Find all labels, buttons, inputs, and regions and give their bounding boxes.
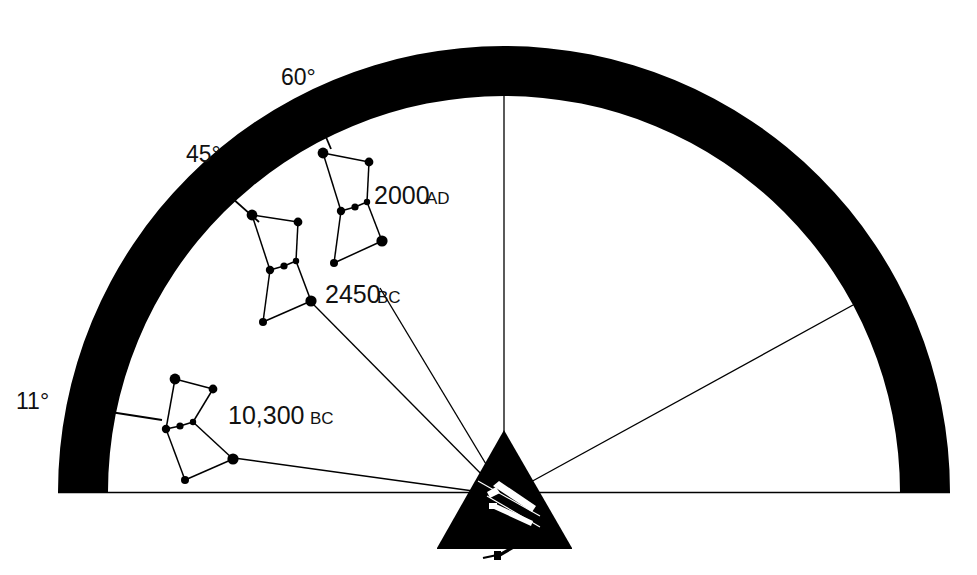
star-betelgeuse bbox=[318, 148, 329, 159]
constellation-stars bbox=[247, 210, 317, 326]
star-rigel bbox=[305, 295, 316, 306]
angle-label-11: 11° bbox=[16, 388, 49, 414]
sightline-2450bc bbox=[313, 304, 498, 491]
link-saiph-rigel bbox=[185, 459, 233, 480]
star-saiph bbox=[259, 318, 267, 326]
link-bellatrix-mintaka bbox=[296, 222, 298, 261]
epoch-era-ad: AD bbox=[426, 189, 450, 208]
sight-lines-group bbox=[234, 288, 501, 494]
star-saiph bbox=[181, 476, 189, 484]
star-mintaka bbox=[293, 258, 299, 264]
angle-label-60: 60° bbox=[281, 64, 316, 90]
right-radial-line bbox=[518, 288, 884, 489]
link-betelgeuse-alnitak bbox=[166, 379, 175, 429]
link-saiph-rigel bbox=[334, 241, 382, 263]
star-alnitak bbox=[266, 266, 274, 274]
star-saiph bbox=[330, 259, 338, 267]
link-betelgeuse-bellatrix bbox=[323, 153, 369, 162]
epoch-era-bc: BC bbox=[310, 409, 334, 428]
epoch-number-2000: 2000 bbox=[374, 181, 430, 209]
link-bellatrix-mintaka bbox=[193, 389, 213, 422]
star-alnitak bbox=[337, 207, 345, 215]
constellation-orion-2450bc bbox=[247, 210, 317, 326]
star-betelgeuse bbox=[247, 210, 258, 221]
star-alnitak bbox=[162, 425, 170, 433]
diagram-canvas: 60° 45° 11° bbox=[0, 0, 977, 575]
epoch-label-10300bc: 10,300 BC bbox=[228, 401, 334, 429]
link-mintaka-rigel bbox=[193, 422, 233, 459]
epoch-label-2450bc: 2450 BC bbox=[325, 280, 401, 308]
star-bellatrix bbox=[294, 218, 303, 227]
star-rigel bbox=[227, 453, 238, 464]
star-mintaka bbox=[364, 199, 370, 205]
subterranean-chamber-marker bbox=[494, 551, 501, 560]
star-bellatrix bbox=[365, 158, 374, 167]
link-mintaka-rigel bbox=[296, 261, 311, 301]
star-mintaka bbox=[190, 419, 196, 425]
epoch-number-2450: 2450 bbox=[325, 280, 381, 308]
angle-label-45: 45° bbox=[186, 141, 221, 167]
link-betelgeuse-alnitak bbox=[323, 153, 341, 211]
orion-precession-figure: 60° 45° 11° bbox=[0, 0, 977, 575]
star-bellatrix bbox=[209, 385, 218, 394]
star-alnilam bbox=[176, 422, 183, 429]
link-alnitak-saiph bbox=[263, 270, 270, 322]
epoch-label-2000ad: 2000 AD bbox=[374, 181, 450, 209]
sightline-10300bc bbox=[234, 458, 495, 494]
star-rigel bbox=[376, 235, 387, 246]
link-saiph-rigel bbox=[263, 301, 311, 322]
link-betelgeuse-bellatrix bbox=[175, 379, 213, 389]
epoch-labels-group: 2000 AD 2450 BC 10,300 BC bbox=[228, 181, 450, 429]
link-betelgeuse-alnitak bbox=[252, 215, 270, 270]
constellation-links bbox=[166, 379, 233, 480]
epoch-number-10300: 10,300 bbox=[228, 401, 304, 429]
sightline-2000ad bbox=[380, 288, 501, 489]
link-alnitak-saiph bbox=[334, 211, 341, 263]
link-alnitak-saiph bbox=[166, 429, 185, 480]
star-alnilam bbox=[280, 262, 287, 269]
link-bellatrix-mintaka bbox=[367, 162, 369, 202]
star-alnilam bbox=[351, 203, 358, 210]
epoch-era-bc: BC bbox=[377, 288, 401, 307]
star-betelgeuse bbox=[170, 374, 181, 385]
